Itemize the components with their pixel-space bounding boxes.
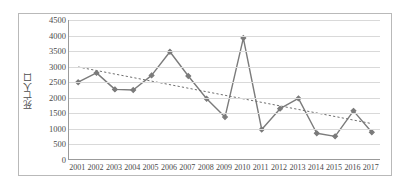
x-tick-label: 2014 bbox=[308, 163, 324, 172]
y-tick-label: 3000 bbox=[49, 62, 66, 72]
gridline bbox=[69, 51, 380, 52]
death-population-line bbox=[78, 38, 372, 136]
x-axis-tick-labels: 2001200220032004200520062007200820092010… bbox=[68, 163, 380, 177]
x-tick-label: 2011 bbox=[253, 163, 269, 172]
gridline bbox=[69, 129, 380, 130]
gridline bbox=[69, 113, 380, 114]
x-tick-label: 2005 bbox=[143, 163, 159, 172]
y-axis-title: 死亡人口 bbox=[22, 56, 36, 126]
gridline bbox=[69, 98, 380, 99]
y-tick-label: 0 bbox=[62, 155, 66, 165]
x-tick-label: 2010 bbox=[234, 163, 250, 172]
y-tick-label: 1500 bbox=[49, 108, 66, 118]
x-tick-label: 2009 bbox=[216, 163, 232, 172]
y-axis-tick-labels: 050010001500200025003000350040004500 bbox=[36, 14, 68, 166]
series-svg bbox=[69, 20, 381, 160]
y-tick-label: 1000 bbox=[49, 124, 66, 134]
x-tick-label: 2001 bbox=[69, 163, 85, 172]
x-tick-label: 2013 bbox=[289, 163, 305, 172]
x-tick-label: 2016 bbox=[344, 163, 360, 172]
y-tick-label: 3500 bbox=[49, 46, 66, 56]
x-tick-label: 2004 bbox=[124, 163, 140, 172]
chart-figure: 死亡人口 05001000150020002500300035004000450… bbox=[0, 0, 410, 195]
x-tick-label: 2002 bbox=[88, 163, 104, 172]
x-tick-label: 2012 bbox=[271, 163, 287, 172]
x-tick-label: 2008 bbox=[198, 163, 214, 172]
plot-area bbox=[68, 20, 380, 160]
y-tick-label: 2500 bbox=[49, 77, 66, 87]
y-tick-label: 2000 bbox=[49, 93, 66, 103]
x-tick-label: 2015 bbox=[326, 163, 342, 172]
y-tick-label: 500 bbox=[53, 139, 66, 149]
gridline bbox=[69, 20, 380, 21]
x-tick-label: 2007 bbox=[179, 163, 195, 172]
y-tick-label: 4500 bbox=[49, 15, 66, 25]
y-tick-label: 4000 bbox=[49, 31, 66, 41]
x-tick-label: 2003 bbox=[106, 163, 122, 172]
gridline bbox=[69, 36, 380, 37]
x-tick-label: 2017 bbox=[363, 163, 379, 172]
gridline bbox=[69, 67, 380, 68]
data-point-marker bbox=[314, 131, 319, 136]
gridline bbox=[69, 82, 380, 83]
gridline bbox=[69, 144, 380, 145]
x-tick-label: 2006 bbox=[161, 163, 177, 172]
